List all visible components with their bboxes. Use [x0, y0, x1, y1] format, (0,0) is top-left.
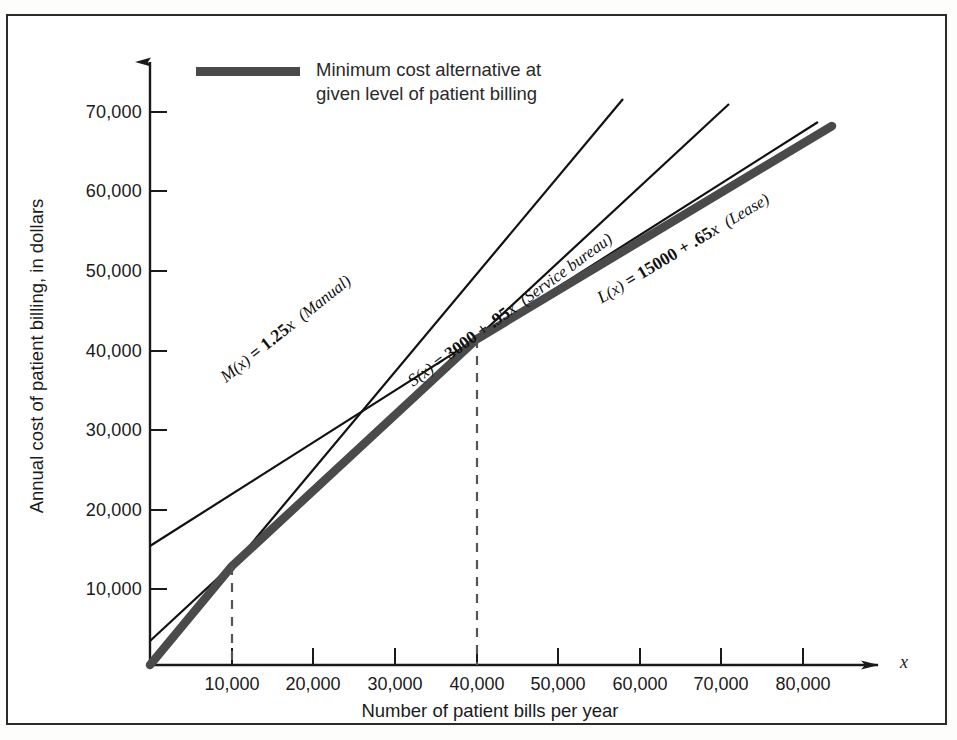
legend-swatch-minimum-cost [196, 67, 300, 76]
x-axis-variable: x [900, 652, 908, 673]
y-tick-marks [150, 112, 167, 589]
plot-canvas [0, 0, 957, 740]
y-tick-label: 40,000 [50, 341, 142, 362]
x-tick-marks [232, 648, 803, 665]
legend: Minimum cost alternative at given level … [196, 58, 541, 107]
y-axis-label: Annual cost of patient billing, in dolla… [26, 191, 48, 521]
y-tick-label: 20,000 [50, 500, 142, 521]
y-tick-label: 10,000 [50, 579, 142, 600]
x-axis-label: Number of patient bills per year [150, 700, 830, 722]
legend-label: Minimum cost alternative at given level … [316, 58, 541, 107]
y-tick-label: 70,000 [50, 102, 142, 123]
x-tick-label: 80,000 [753, 674, 853, 695]
y-tick-label: 50,000 [50, 261, 142, 282]
y-tick-label: 60,000 [50, 181, 142, 202]
figure-container: 70,000 60,000 50,000 40,000 30,000 20,00… [0, 0, 957, 740]
y-tick-label: 30,000 [50, 420, 142, 441]
